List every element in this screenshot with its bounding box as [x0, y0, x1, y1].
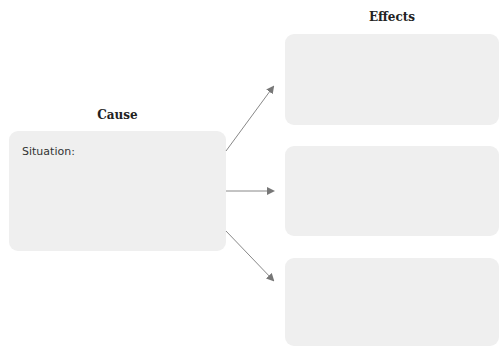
- arrow-to-effect-1-icon: [226, 87, 273, 151]
- connector-arrows: [0, 0, 504, 348]
- arrow-to-effect-3-icon: [226, 231, 273, 280]
